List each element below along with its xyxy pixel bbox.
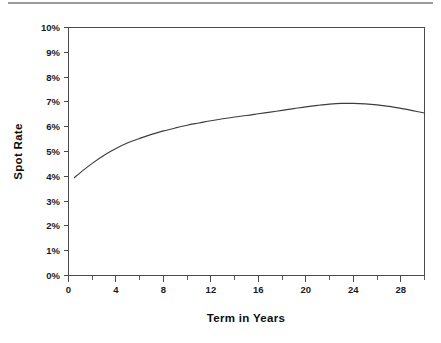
y-tick-label: 2% (46, 220, 60, 231)
x-tick-label: 0 (66, 284, 71, 295)
y-tick-label: 8% (46, 72, 60, 83)
x-tick-label: 20 (301, 284, 312, 295)
x-tick-label: 8 (161, 284, 166, 295)
y-tick-label: 1% (46, 245, 60, 256)
y-axis-tick-labels: 10% 9% 8% 7% 6% 5% 4% 3% 2% 1% 0% (41, 22, 61, 281)
y-tick-label: 4% (46, 171, 60, 182)
x-tick-label: 4 (113, 284, 119, 295)
y-tick-label: 10% (41, 22, 61, 33)
x-tick-label: 24 (348, 284, 359, 295)
y-axis-ticks (64, 28, 69, 276)
y-tick-label: 3% (46, 196, 60, 207)
y-tick-label: 9% (46, 47, 60, 58)
chart-axes (69, 28, 425, 276)
x-axis-title: Term in Years (207, 312, 285, 324)
x-tick-label: 16 (253, 284, 264, 295)
x-tick-label: 28 (395, 284, 406, 295)
y-tick-label: 6% (46, 121, 60, 132)
spot-rate-series-line (74, 103, 424, 177)
y-tick-label: 5% (46, 146, 60, 157)
spot-rate-line-chart: 10% 9% 8% 7% 6% 5% 4% 3% 2% 1% 0% (0, 0, 441, 343)
y-axis-title: Spot Rate (12, 123, 24, 179)
chart-figure: 10% 9% 8% 7% 6% 5% 4% 3% 2% 1% 0% (0, 0, 441, 343)
x-tick-label: 12 (206, 284, 217, 295)
x-axis-tick-labels: 0 4 8 12 16 20 24 28 (66, 284, 406, 295)
y-tick-label: 0% (46, 270, 60, 281)
y-tick-label: 7% (46, 96, 60, 107)
x-axis-ticks (69, 276, 425, 282)
